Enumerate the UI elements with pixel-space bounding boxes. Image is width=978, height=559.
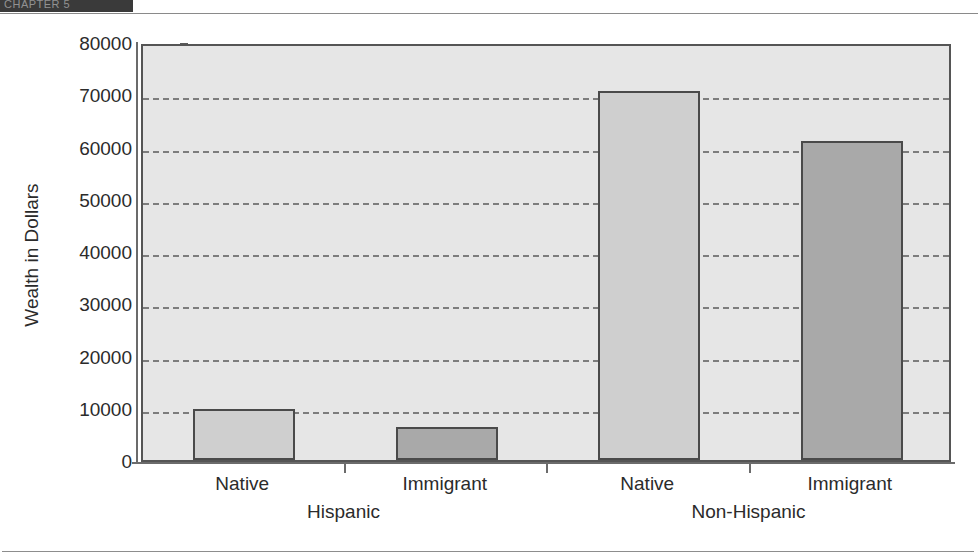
y-tick-label: 0 [46, 451, 132, 473]
bar-hispanic-native [193, 409, 295, 460]
chapter-tab-label: CHAPTER 5 [4, 0, 70, 10]
x-tick-label-2: Native [620, 473, 674, 495]
y-tick-label: 40000 [46, 242, 132, 264]
y-axis-outer-spine [136, 42, 138, 464]
footer-divider-rule [2, 551, 974, 552]
x-tick-mark [344, 464, 346, 473]
bar-hispanic-immigrant [396, 427, 498, 460]
bar-non-hispanic-native [598, 91, 700, 460]
y-tick-label: 50000 [46, 190, 132, 212]
y-axis-tick-labels: 0100002000030000400005000060000700008000… [46, 14, 132, 484]
bar-chart-figure: Wealth in Dollars 0100002000030000400005… [0, 14, 978, 534]
page-header-strip: CHAPTER 5 [0, 0, 978, 14]
y-tick-label: 80000 [46, 33, 132, 55]
chapter-tab: CHAPTER 5 [0, 0, 133, 12]
y-tick-label: 30000 [46, 294, 132, 316]
x-tick-label-3: Immigrant [808, 473, 892, 495]
x-tick-mark [749, 464, 751, 473]
x-group-label-non-hispanic: Non-Hispanic [691, 501, 805, 523]
x-tick-mark [546, 464, 548, 473]
bar-non-hispanic-immigrant [801, 141, 903, 460]
y-tick-label: 60000 [46, 138, 132, 160]
x-group-label-hispanic: Hispanic [307, 501, 380, 523]
y-axis-title: Wealth in Dollars [21, 155, 43, 355]
gridline [143, 98, 949, 100]
plot-inner [143, 46, 949, 460]
y-tick-label: 20000 [46, 347, 132, 369]
y-tick-label: 70000 [46, 85, 132, 107]
x-tick-label-0: Native [215, 473, 269, 495]
y-tick-label: 10000 [46, 399, 132, 421]
x-tick-label-1: Immigrant [403, 473, 487, 495]
plot-area [141, 44, 951, 462]
